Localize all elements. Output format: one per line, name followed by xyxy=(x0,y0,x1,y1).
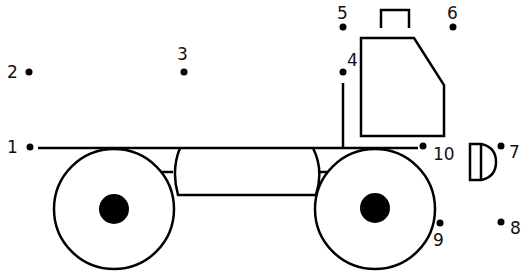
dot-4[interactable] xyxy=(340,69,347,76)
dot-6[interactable] xyxy=(450,24,457,31)
dot-label-4: 4 xyxy=(347,50,358,70)
front-wheel-hub xyxy=(99,194,129,224)
dot-5[interactable] xyxy=(340,24,347,31)
dot-label-1: 1 xyxy=(7,137,18,157)
dot-label-8: 8 xyxy=(510,218,521,238)
dot-7[interactable] xyxy=(498,143,505,150)
cab-body xyxy=(361,38,444,136)
dot-label-6: 6 xyxy=(447,3,458,23)
dot-to-dot-puzzle: 12345678910 xyxy=(0,0,526,280)
dot-3[interactable] xyxy=(181,69,188,76)
dot-9[interactable] xyxy=(437,220,444,227)
dot-10[interactable] xyxy=(420,143,427,150)
dot-label-3: 3 xyxy=(177,44,188,64)
dot-label-9: 9 xyxy=(433,230,444,250)
dot-label-5: 5 xyxy=(337,3,348,23)
dot-label-7: 7 xyxy=(509,142,520,162)
rear-wheel-hub xyxy=(360,193,390,223)
fuel-tank xyxy=(175,148,319,195)
dot-8[interactable] xyxy=(498,219,505,226)
cab-top-bracket xyxy=(381,10,409,28)
headlight xyxy=(470,144,496,180)
dot-label-2: 2 xyxy=(7,62,18,82)
dot-2[interactable] xyxy=(26,69,33,76)
truck-drawing: 12345678910 xyxy=(0,0,526,280)
dot-1[interactable] xyxy=(27,144,34,151)
dot-label-10: 10 xyxy=(433,144,455,164)
